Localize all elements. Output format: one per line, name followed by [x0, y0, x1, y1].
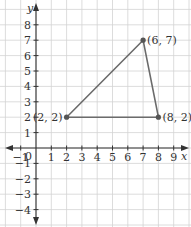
vertex-label: (6, 7) [147, 34, 177, 47]
y-tick-label: 4 [24, 80, 31, 93]
vertex-point [141, 38, 146, 43]
x-tick-label: 8 [155, 151, 162, 164]
y-axis-up-arrow-icon [33, 3, 39, 11]
x-tick-label: 5 [109, 151, 116, 164]
x-tick-label: 7 [140, 151, 147, 164]
coordinate-plane: x y 0 −112345678987654321−1−2−3−4 (2, 2)… [0, 0, 191, 227]
y-tick-label: 3 [24, 96, 31, 109]
y-tick-label: 2 [24, 111, 31, 124]
vertex-point [64, 115, 69, 120]
x-tick-label: 9 [170, 151, 177, 164]
vertex-point [156, 115, 161, 120]
y-tick-label: −3 [15, 188, 31, 201]
y-tick-label: 6 [24, 50, 31, 63]
vertex-label: (2, 2) [33, 111, 63, 124]
y-axis-down-arrow-icon [33, 217, 39, 225]
x-axis-label: x [181, 150, 188, 163]
vertex-label: (8, 2) [162, 111, 191, 124]
y-tick-label: 1 [24, 127, 31, 140]
y-tick-label: −2 [15, 173, 31, 186]
y-tick-label: 5 [24, 65, 31, 78]
y-tick-label: 8 [24, 19, 31, 32]
x-tick-label: 4 [94, 151, 101, 164]
y-axis-label: y [26, 2, 34, 15]
x-tick-label: 1 [48, 151, 55, 164]
y-tick-label: −4 [15, 204, 31, 217]
x-tick-label: 2 [63, 151, 70, 164]
y-tick-label: −1 [15, 157, 31, 170]
triangle: (2, 2)(6, 7)(8, 2) [33, 34, 191, 124]
x-tick-label: 6 [124, 151, 131, 164]
x-tick-label: 3 [78, 151, 85, 164]
y-tick-label: 7 [24, 34, 31, 47]
